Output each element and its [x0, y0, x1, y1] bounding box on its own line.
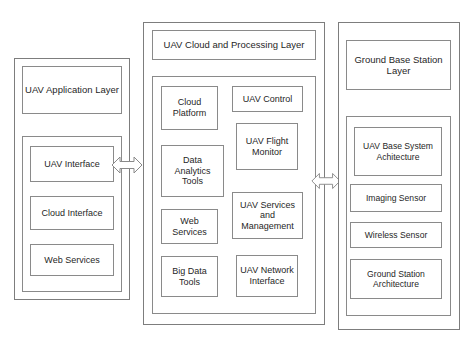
cloud-platform-box[interactable]: Cloud Platform — [161, 86, 218, 130]
big-data-tools-box[interactable]: Big Data Tools — [161, 256, 218, 297]
uav-base-system-architecture-box[interactable]: UAV Base System Achitecture — [354, 127, 442, 176]
uav-flight-monitor-box[interactable]: UAV Flight Monitor — [236, 123, 298, 170]
uav-network-interface-box[interactable]: UAV Network Interface — [236, 255, 298, 297]
wireless-sensor-box[interactable]: Wireless Sensor — [350, 222, 442, 248]
uav-services-and-management-box[interactable]: UAV Services and Management — [232, 192, 303, 239]
uav-control-box[interactable]: UAV Control — [232, 86, 303, 112]
application-to-cloud-arrow — [110, 152, 144, 178]
uav-interface-box[interactable]: UAV Interface — [30, 146, 114, 182]
imaging-sensor-box[interactable]: Imaging Sensor — [350, 184, 442, 212]
data-analytics-tools-box[interactable]: Data Analytics Tools — [161, 145, 224, 197]
ground-base-station-layer-header: Ground Base Station Layer — [346, 40, 451, 90]
uav-cloud-processing-layer-header: UAV Cloud and Processing Layer — [152, 30, 316, 60]
figure-caption — [14, 342, 224, 354]
uav-application-layer-header: UAV Application Layer — [22, 66, 122, 114]
cloud-interface-box[interactable]: Cloud Interface — [30, 196, 114, 230]
web-services-box-cloud[interactable]: Web Services — [161, 209, 218, 244]
ground-station-architecture-box[interactable]: Ground Station Architecture — [350, 259, 442, 299]
uav-architecture-diagram: UAV Application Layer UAV Interface Clou… — [0, 0, 466, 355]
web-services-box-application[interactable]: Web Services — [30, 244, 114, 276]
